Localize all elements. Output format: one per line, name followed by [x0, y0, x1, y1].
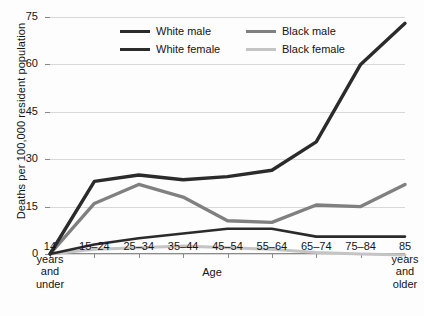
x-tick-label-line: 14	[36, 240, 64, 253]
x-tick-mark-3	[183, 254, 184, 258]
legend-item-white-female: White female	[120, 43, 246, 55]
legend-label: White female	[156, 43, 220, 55]
legend-item-black-male: Black male	[246, 25, 370, 37]
y-tick-label-15: 15	[10, 200, 38, 212]
x-tick-label-2: 25–34	[123, 240, 154, 253]
x-tick-label-3: 35–44	[168, 240, 199, 253]
legend-label: Black female	[282, 43, 345, 55]
x-tick-mark-1	[94, 254, 95, 258]
legend-swatch-icon	[246, 30, 276, 33]
y-tick-label-60: 60	[10, 57, 38, 69]
x-tick-mark-6	[316, 254, 317, 258]
x-tick-label-line: 75–84	[345, 240, 376, 253]
legend-item-white-male: White male	[120, 25, 246, 37]
x-tick-label-6: 65–74	[301, 240, 332, 253]
x-tick-label-4: 45–54	[212, 240, 243, 253]
x-tick-label-line: 45–54	[212, 240, 243, 253]
x-tick-mark-4	[228, 254, 229, 258]
x-tick-label-line: years	[36, 253, 64, 266]
x-axis-title-text: Age	[202, 266, 222, 278]
legend-label: White male	[156, 25, 211, 37]
y-tick-label-75: 75	[10, 10, 38, 22]
x-tick-label-line: 55–64	[257, 240, 288, 253]
x-axis-title: Age	[0, 266, 424, 278]
x-tick-label-7: 75–84	[345, 240, 376, 253]
x-tick-label-line: older	[392, 278, 419, 291]
y-tick-label-0: 0	[10, 247, 38, 259]
x-tick-label-line: 65–74	[301, 240, 332, 253]
x-tick-label-8: 85yearsandolder	[392, 240, 419, 290]
x-tick-label-5: 55–64	[257, 240, 288, 253]
x-tick-mark-5	[272, 254, 273, 258]
x-tick-label-line: 25–34	[123, 240, 154, 253]
x-tick-label-1: 15–24	[79, 240, 110, 253]
line-chart: Deaths per 100,000 resident population 0…	[0, 0, 424, 316]
x-tick-label-line: years	[392, 253, 419, 266]
x-tick-label-line: 85	[392, 240, 419, 253]
legend-swatch-icon	[120, 30, 150, 33]
y-axis-title-text: Deaths per 100,000 resident population	[15, 23, 27, 219]
y-tick-label-30: 30	[10, 152, 38, 164]
chart-legend: White maleBlack maleWhite femaleBlack fe…	[120, 22, 370, 58]
x-tick-label-line: 15–24	[79, 240, 110, 253]
y-tick-label-45: 45	[10, 105, 38, 117]
x-tick-label-0: 14yearsandunder	[36, 240, 64, 290]
legend-label: Black male	[282, 25, 336, 37]
legend-item-black-female: Black female	[246, 43, 370, 55]
legend-swatch-icon	[246, 48, 276, 51]
legend-swatch-icon	[120, 48, 150, 51]
x-tick-mark-2	[139, 254, 140, 258]
x-tick-label-line: 35–44	[168, 240, 199, 253]
x-tick-label-line: under	[36, 278, 64, 291]
